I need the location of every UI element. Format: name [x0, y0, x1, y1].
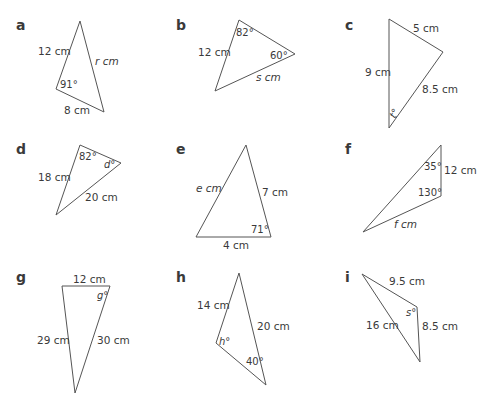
side-label: 14 cm: [197, 299, 230, 311]
triangle-e: e e cm 7 cm 4 cm 71°: [176, 141, 288, 251]
side-label: r cm: [95, 55, 119, 67]
side-label: 5 cm: [413, 22, 439, 34]
side-label: 12 cm: [198, 46, 231, 58]
angle-label: s°: [406, 307, 416, 318]
side-label: 12 cm: [38, 45, 71, 57]
angle-label: 71°: [251, 224, 269, 235]
label-letter-d: d: [16, 141, 26, 157]
label-letter-e: e: [176, 141, 186, 157]
angle-label: h°: [219, 336, 230, 347]
side-label: 8.5 cm: [422, 83, 458, 95]
side-label: 18 cm: [38, 171, 71, 183]
triangle-b: b 12 cm s cm 82° 60°: [176, 17, 295, 91]
side-label: 29 cm: [37, 334, 70, 346]
label-letter-i: i: [345, 269, 350, 285]
triangle-exercise-grid: a 12 cm r cm 8 cm 91° b 12 cm s cm 82° 6…: [0, 0, 481, 407]
angle-label: 82°: [236, 27, 254, 38]
angle-label: 40°: [246, 356, 264, 367]
angle-label: 130°: [418, 187, 442, 198]
side-label: 4 cm: [223, 239, 249, 251]
triangle-a: a 12 cm r cm 8 cm 91°: [16, 17, 119, 116]
triangle-i: i 9.5 cm 16 cm 8.5 cm s°: [345, 269, 458, 362]
side-label: s cm: [256, 71, 281, 83]
side-label: 8.5 cm: [422, 320, 458, 332]
side-label: 20 cm: [257, 320, 290, 332]
triangle-h: h 14 cm 20 cm h° 40°: [176, 269, 290, 385]
angle-label: 60°: [270, 50, 288, 61]
side-label: 9.5 cm: [389, 275, 425, 287]
triangle-g: g 12 cm 29 cm 30 cm g°: [16, 269, 130, 393]
triangle-c: c 5 cm 9 cm 8.5 cm t°: [345, 17, 458, 128]
label-letter-c: c: [345, 17, 353, 33]
side-label: 12 cm: [73, 273, 106, 285]
label-letter-g: g: [16, 269, 26, 285]
angle-label: d°: [104, 159, 115, 170]
side-label: f cm: [394, 218, 417, 230]
side-label: e cm: [196, 182, 222, 194]
side-label: 30 cm: [97, 334, 130, 346]
side-label: 20 cm: [85, 191, 118, 203]
side-label: 12 cm: [444, 164, 477, 176]
angle-label: g°: [97, 290, 108, 301]
side-label: 7 cm: [262, 186, 288, 198]
angle-label: 82°: [79, 151, 97, 162]
side-label: 9 cm: [365, 66, 391, 78]
label-letter-f: f: [345, 141, 352, 157]
triangle-d: d 18 cm 20 cm 82° d°: [16, 141, 121, 215]
side-label: 16 cm: [366, 319, 399, 331]
side-label: 8 cm: [64, 104, 90, 116]
angle-label: 35°: [424, 161, 442, 172]
angle-label: 91°: [60, 79, 78, 90]
label-letter-b: b: [176, 17, 186, 33]
triangle-f: f 12 cm f cm 35° 130°: [345, 141, 477, 232]
label-letter-a: a: [16, 17, 25, 33]
triangle-i-shape: [362, 274, 420, 362]
label-letter-h: h: [176, 269, 186, 285]
